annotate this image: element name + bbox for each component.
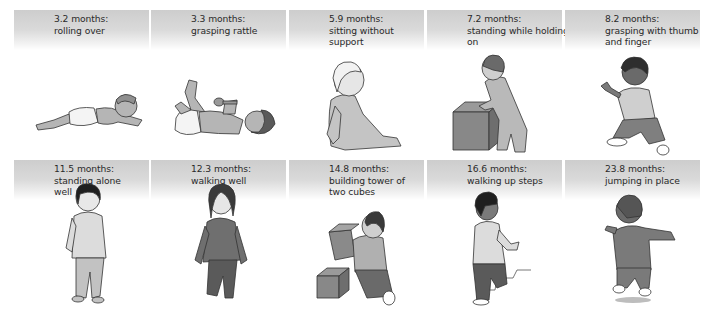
milestone-panel-rolling-over: 3.2 months: rolling over <box>14 10 149 158</box>
milestone-panel-standing-while-holding-on: 7.2 months: standing while holding on <box>427 10 562 158</box>
milestone-panel-standing-alone: 11.5 months: standing alone well <box>14 160 149 308</box>
milestone-panel-building-tower: 14.8 months: building tower of two cubes <box>289 160 424 308</box>
baby-standing-holding-box-icon <box>427 10 562 158</box>
milestone-panel-grasping-rattle: 3.3 months: grasping rattle <box>151 10 286 158</box>
milestone-panel-grasping-thumb-finger: 8.2 months: grasping with thumb and fing… <box>565 10 700 158</box>
baby-sitting-pincer-grasp-icon <box>565 10 700 158</box>
baby-lying-on-stomach-icon <box>14 10 149 158</box>
baby-on-back-holding-rattle-icon <box>151 10 286 158</box>
milestone-panel-jumping-in-place: 23.8 months: jumping in place <box>565 160 700 308</box>
toddler-standing-icon <box>14 160 149 308</box>
toddler-kneeling-stacking-cubes-icon <box>289 160 424 308</box>
milestone-panel-walking-up-steps: 16.6 months: walking up steps <box>427 160 562 308</box>
milestone-panel-walking-well: 12.3 months: walking well <box>151 160 286 308</box>
toddler-climbing-steps-icon <box>427 160 562 308</box>
baby-sitting-icon <box>289 10 424 158</box>
toddler-walking-icon <box>151 160 286 308</box>
milestone-panel-sitting-without-support: 5.9 months: sitting without support <box>289 10 424 158</box>
toddler-jumping-icon <box>565 160 700 308</box>
